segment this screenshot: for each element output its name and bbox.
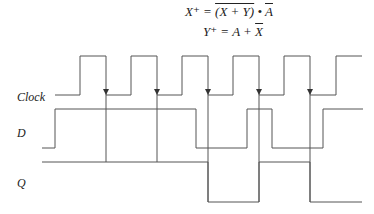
d-waveform: [42, 109, 363, 148]
edge-arrow-icon: [307, 89, 313, 95]
edge-arrow-icon: [103, 89, 109, 95]
edge-arrow-icon: [205, 89, 211, 95]
q-waveform: [42, 162, 362, 202]
edge-arrow-icon: [256, 89, 262, 95]
edge-arrow-icon: [154, 89, 160, 95]
timing-diagram: [0, 0, 374, 214]
